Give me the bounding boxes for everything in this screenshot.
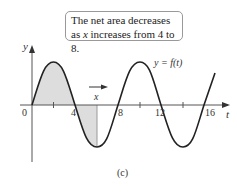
x-marker-label: x xyxy=(94,91,98,102)
callout-line1: The net area decreases xyxy=(71,13,182,27)
x-direction-arrowhead-icon xyxy=(101,85,108,90)
callout-line2: as x increases from 4 to 8. xyxy=(71,27,182,55)
y-axis-label: y xyxy=(23,40,28,52)
tick-label-4: 4 xyxy=(71,107,76,118)
tick-label-0: 0 xyxy=(22,107,27,118)
tick-label-12: 12 xyxy=(155,107,165,118)
tick-label-16: 16 xyxy=(205,107,215,118)
y-axis-arrow-icon xyxy=(29,45,35,53)
caption: (c) xyxy=(117,167,128,178)
callout-box: The net area decreases as x increases fr… xyxy=(65,11,183,41)
curve-label: y = f(t) xyxy=(154,57,182,68)
callout-text: as xyxy=(71,28,83,40)
t-axis-label: t xyxy=(226,108,229,120)
tick-label-8: 8 xyxy=(118,107,123,118)
